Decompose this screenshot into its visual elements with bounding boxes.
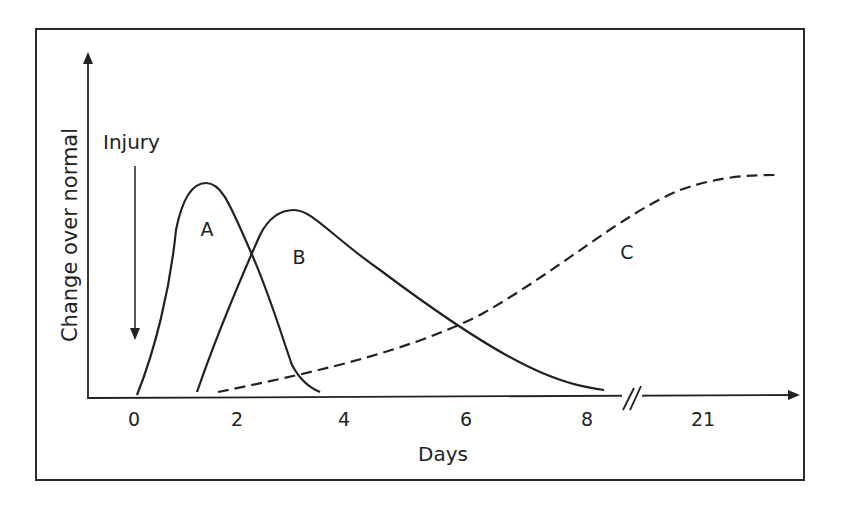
curve-label-b: B: [292, 246, 305, 268]
x-tick-2: 2: [231, 408, 243, 430]
curve-b: [197, 210, 604, 392]
x-tick-4: 4: [338, 408, 350, 430]
curve-label-c: C: [620, 241, 633, 263]
injury-annotation: Injury: [103, 130, 160, 154]
x-axis: [88, 395, 798, 398]
curve-label-a: A: [201, 218, 214, 240]
x-axis-label: Days: [418, 442, 468, 466]
curve-a: [137, 183, 320, 395]
chart-plot: [0, 0, 846, 508]
curve-c: [218, 175, 775, 392]
x-tick-6: 6: [460, 408, 472, 430]
x-tick-21: 21: [691, 408, 715, 430]
y-axis-label: Change over normal: [58, 128, 82, 342]
x-tick-8: 8: [581, 408, 593, 430]
axis-break-icon: [622, 385, 642, 410]
x-tick-0: 0: [128, 408, 140, 430]
